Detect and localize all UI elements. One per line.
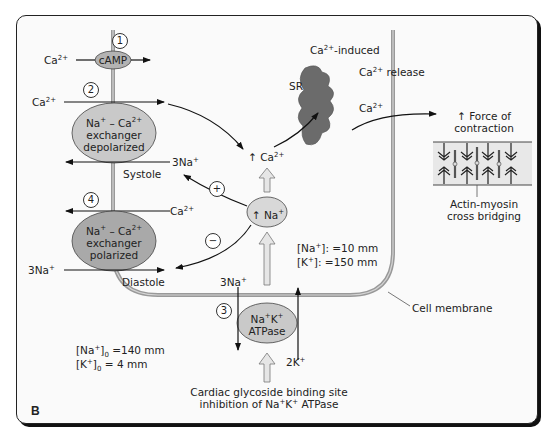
minus-badge: −: [205, 233, 221, 249]
sr-ca-out-label: Ca2+: [359, 102, 383, 114]
cross-bridging-label: Actin-myosin cross bridging: [436, 198, 532, 222]
systole-label: Systole: [123, 168, 161, 180]
na-increase-label: ↑ Na+: [248, 206, 288, 221]
extracellular-k: [K+]0 = 4 mm: [76, 358, 147, 375]
step2-ca-label: Ca2+: [32, 96, 56, 108]
membrane-pointer-line: [388, 292, 410, 306]
exchanger-polarized-label: Na+ – Ca2+ exchanger polarized: [72, 222, 156, 261]
step2-na-label: 3Na+: [172, 156, 199, 168]
panel-letter: B: [31, 404, 40, 418]
step-4-badge: 4: [83, 192, 99, 208]
step-1-badge: 1: [112, 33, 128, 49]
sarcoplasmic-reticulum: [298, 66, 333, 145]
intracellular-na: [Na+]: =10 mm: [297, 242, 378, 254]
intracellular-k: [K+]: =150 mm: [297, 256, 377, 268]
exchanger-depolarized-label: Na+ – Ca2+ exchanger depolarized: [72, 114, 156, 153]
cell-membrane-label: Cell membrane: [412, 302, 492, 314]
pump-label: Na+K+ ATPase: [240, 310, 294, 337]
glycoside-label: Cardiac glycoside binding site inhibitio…: [184, 386, 354, 410]
pump-na-label: 3Na+: [220, 276, 247, 288]
sarcomere-illustration: [433, 142, 532, 197]
hollow-arrow-glycoside: [259, 353, 275, 382]
camp-label: cAMP: [95, 54, 131, 66]
plus-badge: +: [209, 181, 225, 197]
step4-ca-label: Ca2+: [170, 205, 194, 217]
ca-increase-label: ↑ Ca2+: [248, 151, 284, 163]
force-label: ↑ Force of contraction: [436, 110, 532, 134]
step-2-badge: 2: [83, 82, 99, 98]
diastole-label: Diastole: [122, 276, 165, 288]
sr-label: SR: [289, 80, 303, 92]
step4-na-label: 3Na+: [28, 264, 55, 276]
ca-release-label: Ca2+ release: [359, 66, 425, 78]
step-3-badge: 3: [216, 303, 232, 319]
hollow-arrow-pump-to-na: [259, 232, 275, 285]
hollow-arrow-na-to-ca: [259, 168, 275, 192]
pump-k-label: 2K+: [286, 356, 305, 368]
step1-ca-label: Ca2+: [44, 54, 68, 66]
ca-to-center-arrow: [168, 104, 243, 149]
ca-induced-label: Ca2+-induced: [310, 44, 380, 56]
